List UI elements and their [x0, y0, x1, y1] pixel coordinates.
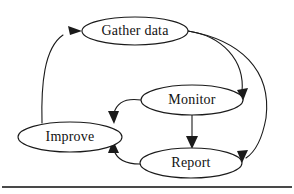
edge-path — [188, 31, 242, 92]
edge-path — [42, 35, 63, 123]
arrowhead-icon — [68, 26, 82, 35]
node-label: Monitor — [168, 92, 215, 107]
diagram-container: Gather data Monitor Improve Report — [0, 0, 294, 194]
edge-improve-to-gather-data — [42, 26, 82, 123]
node-label: Gather data — [101, 23, 169, 38]
edge-path — [114, 100, 141, 113]
node-layer: Gather data Monitor Improve Report — [18, 17, 243, 178]
edge-monitor-to-report — [186, 115, 198, 149]
edge-monitor-to-improve — [108, 100, 141, 124]
arrowhead-icon — [108, 111, 119, 124]
node-label: Improve — [46, 129, 95, 144]
node-label: Report — [171, 155, 210, 170]
flow-diagram-canvas: Gather data Monitor Improve Report — [0, 0, 294, 194]
node-gather-data[interactable]: Gather data — [82, 17, 188, 45]
node-improve[interactable]: Improve — [18, 122, 122, 152]
node-report[interactable]: Report — [140, 148, 242, 178]
arrowhead-icon — [186, 136, 198, 149]
node-monitor[interactable]: Monitor — [141, 85, 243, 115]
